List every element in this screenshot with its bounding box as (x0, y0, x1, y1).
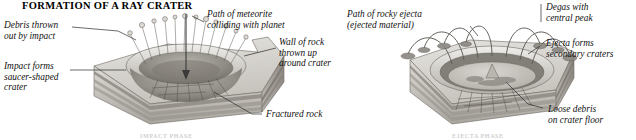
label-wall-of-rock: Wall of rock thrown up around crater (279, 37, 331, 69)
label-impact-forms-crater: Impact forms saucer-shaped crater (4, 61, 59, 93)
caption-impact-phase: IMPACT PHASE (140, 133, 192, 139)
label-path-of-rocky-ejecta: Path of rocky ejecta (ejected material) (347, 9, 422, 30)
label-ejecta-secondary-craters: Ejecta forms secondary craters (546, 38, 613, 59)
label-fractured-rock: Fractured rock (266, 109, 322, 120)
label-path-of-meteorite: Path of meteorite colliding with planet (207, 9, 285, 30)
label-loose-debris: Loose debris on crater floor (548, 104, 603, 125)
label-debris-thrown-out: Debris thrown out by impact (4, 20, 58, 41)
label-degas-central-peak: Degas with central peak (546, 2, 593, 23)
ray-crater-figure: FORMATION OF A RAY CRATER (0, 0, 636, 140)
caption-ejecta-phase: EJECTA PHASE (452, 133, 504, 139)
